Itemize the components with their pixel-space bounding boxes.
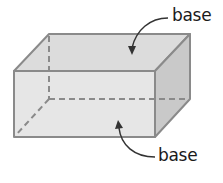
bottom-base-label: base: [158, 147, 197, 164]
top-base-label: base: [172, 7, 211, 24]
front-face: [14, 71, 155, 137]
